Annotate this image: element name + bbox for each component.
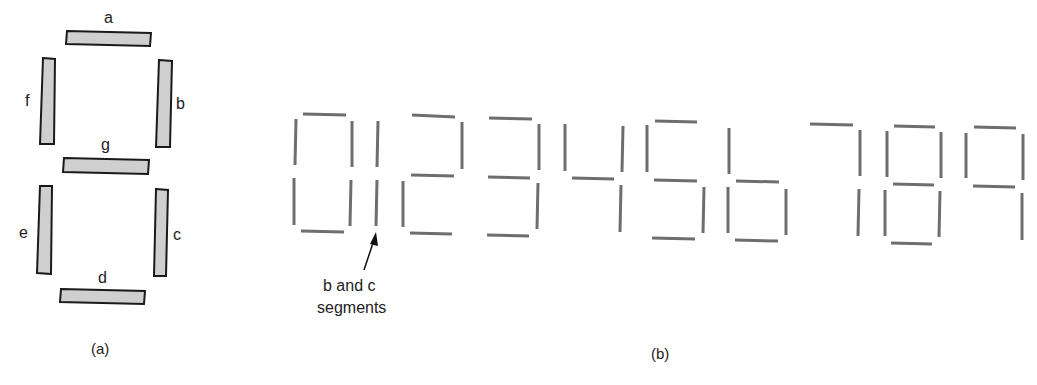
digit-row (294, 114, 1023, 244)
segment-label-a: a (104, 9, 113, 26)
segment-b (156, 60, 172, 147)
segment-c (154, 189, 168, 276)
segment-label-e: e (19, 224, 28, 241)
arrow-head-icon (370, 232, 378, 246)
b-and-c-annotation: b and c segments (317, 232, 386, 316)
digit-4 (565, 124, 623, 232)
digit-5 (647, 121, 704, 239)
segment-g (63, 158, 149, 174)
caption-b: (b) (651, 345, 669, 362)
seven-segment-figure: a b c d e f g (a) (0, 0, 1037, 385)
digit-6 (728, 128, 786, 241)
segment-diagram: a b c d e f g (a) (19, 9, 185, 357)
segment-label-c: c (173, 226, 181, 243)
annotation-line1: b and c (323, 277, 375, 294)
segment-label-f: f (25, 92, 30, 109)
segment-label-d: d (98, 269, 107, 286)
annotation-line2: segments (317, 299, 386, 316)
digit-2 (403, 115, 462, 234)
digit-0 (294, 114, 352, 232)
digit-1 (376, 121, 378, 226)
digit-8 (885, 126, 941, 244)
digit-3 (487, 118, 539, 236)
digit-7 (810, 124, 860, 236)
segment-label-g: g (101, 136, 110, 153)
segment-a (66, 31, 151, 46)
segment-f (40, 58, 55, 144)
segment-e (37, 186, 52, 274)
segment-d (60, 289, 145, 304)
segment-label-b: b (176, 95, 185, 112)
digit-9 (966, 127, 1023, 240)
caption-a: (a) (91, 340, 109, 357)
